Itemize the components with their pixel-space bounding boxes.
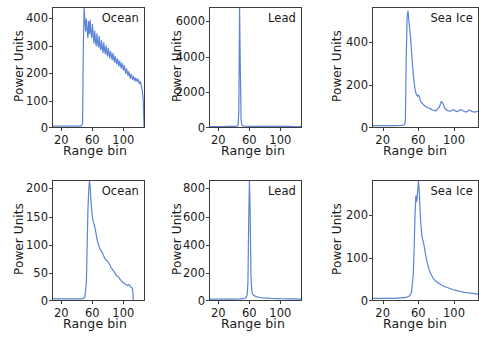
waveform-line-ocean xyxy=(53,181,144,300)
y-axis-label-2: Power Units xyxy=(330,10,344,122)
y-tick-mark xyxy=(49,101,52,102)
plot-area-sea-ice-bottom xyxy=(372,180,479,301)
y-tick-mark xyxy=(206,57,209,58)
x-tick-label-5-100: 100 xyxy=(434,306,474,320)
x-tick-mark xyxy=(218,301,219,304)
y-tick-label-2-0: 0 xyxy=(326,121,368,135)
waveform-line-lead xyxy=(210,8,301,127)
plot-area-ocean-bottom xyxy=(52,180,145,301)
waveform-line-lead xyxy=(210,181,301,300)
y-tick-mark xyxy=(369,300,372,301)
y-tick-label-5-200: 200 xyxy=(326,208,368,222)
panel-title-1: Lead xyxy=(250,11,296,25)
y-tick-mark xyxy=(49,217,52,218)
y-tick-label-4-600: 600 xyxy=(163,210,205,224)
x-tick-label-2-100: 100 xyxy=(434,133,474,147)
y-tick-label-0-100: 100 xyxy=(6,94,48,108)
x-tick-mark xyxy=(92,128,93,131)
x-tick-mark xyxy=(249,128,250,131)
y-tick-mark xyxy=(49,245,52,246)
x-tick-mark xyxy=(280,128,281,131)
x-tick-mark xyxy=(454,128,455,131)
waveform-figure: OceanPower UnitsRange bin010020030040020… xyxy=(0,0,479,342)
x-tick-label-5-60: 60 xyxy=(398,306,438,320)
y-tick-mark xyxy=(206,245,209,246)
y-tick-label-1-4000: 4000 xyxy=(163,50,205,64)
y-tick-mark xyxy=(49,188,52,189)
y-tick-mark xyxy=(369,258,372,259)
panel-title-0: Ocean xyxy=(93,11,139,25)
x-tick-mark xyxy=(123,301,124,304)
x-tick-mark xyxy=(123,128,124,131)
y-tick-mark xyxy=(49,46,52,47)
x-tick-mark xyxy=(418,301,419,304)
plot-area-ocean-top xyxy=(52,7,145,128)
x-tick-mark xyxy=(383,301,384,304)
y-tick-label-0-300: 300 xyxy=(6,39,48,53)
x-tick-mark xyxy=(92,301,93,304)
x-tick-mark xyxy=(249,301,250,304)
y-tick-label-4-200: 200 xyxy=(163,266,205,280)
x-tick-mark xyxy=(218,128,219,131)
x-tick-mark xyxy=(454,301,455,304)
y-tick-label-1-6000: 6000 xyxy=(163,14,205,28)
y-tick-label-0-200: 200 xyxy=(6,66,48,80)
y-tick-label-0-400: 400 xyxy=(6,11,48,25)
panel-title-3: Ocean xyxy=(93,184,139,198)
y-tick-mark xyxy=(206,21,209,22)
x-tick-label-2-60: 60 xyxy=(398,133,438,147)
y-tick-mark xyxy=(49,127,52,128)
x-tick-label-0-100: 100 xyxy=(103,133,143,147)
y-tick-label-3-50: 50 xyxy=(6,266,48,280)
x-tick-label-5-20: 20 xyxy=(363,306,403,320)
y-tick-label-2-200: 200 xyxy=(326,78,368,92)
y-tick-label-4-800: 800 xyxy=(163,181,205,195)
panel-title-4: Lead xyxy=(250,184,296,198)
y-tick-mark xyxy=(49,300,52,301)
x-tick-mark xyxy=(61,128,62,131)
x-tick-label-4-100: 100 xyxy=(260,306,300,320)
x-tick-label-2-20: 20 xyxy=(363,133,403,147)
y-tick-label-3-100: 100 xyxy=(6,238,48,252)
x-tick-label-1-100: 100 xyxy=(260,133,300,147)
x-tick-label-3-100: 100 xyxy=(103,306,143,320)
y-tick-mark xyxy=(206,92,209,93)
waveform-line-sea-ice xyxy=(373,181,478,300)
y-tick-label-2-400: 400 xyxy=(326,35,368,49)
y-tick-mark xyxy=(206,300,209,301)
x-tick-mark xyxy=(418,128,419,131)
y-tick-mark xyxy=(369,85,372,86)
y-tick-label-1-2000: 2000 xyxy=(163,85,205,99)
y-tick-label-4-400: 400 xyxy=(163,238,205,252)
plot-area-sea-ice-top xyxy=(372,7,479,128)
waveform-line-ocean xyxy=(53,8,144,127)
y-tick-label-3-200: 200 xyxy=(6,181,48,195)
y-tick-label-3-150: 150 xyxy=(6,210,48,224)
y-axis-label-5: Power Units xyxy=(330,183,344,295)
y-tick-label-5-100: 100 xyxy=(326,251,368,265)
y-tick-mark xyxy=(206,273,209,274)
y-tick-mark xyxy=(369,215,372,216)
waveform-line-sea-ice xyxy=(373,8,478,127)
y-tick-mark xyxy=(369,42,372,43)
y-tick-mark xyxy=(49,18,52,19)
panel-title-5: Sea Ice xyxy=(427,184,473,198)
y-tick-label-5-0: 0 xyxy=(326,294,368,308)
plot-area-lead-top xyxy=(209,7,302,128)
y-tick-mark xyxy=(49,73,52,74)
y-tick-mark xyxy=(369,127,372,128)
plot-area-lead-bottom xyxy=(209,180,302,301)
x-tick-mark xyxy=(61,301,62,304)
y-tick-mark xyxy=(206,188,209,189)
x-tick-mark xyxy=(280,301,281,304)
x-tick-mark xyxy=(383,128,384,131)
panel-title-2: Sea Ice xyxy=(427,11,473,25)
y-tick-mark xyxy=(49,273,52,274)
y-tick-mark xyxy=(206,217,209,218)
y-tick-mark xyxy=(206,127,209,128)
